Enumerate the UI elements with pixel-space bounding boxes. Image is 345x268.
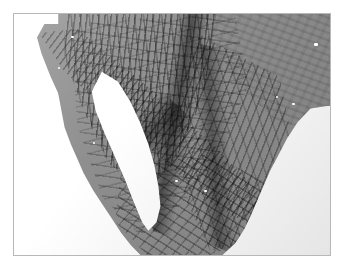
reservoir-6-icon	[71, 36, 74, 38]
reservoir-1-icon	[314, 43, 318, 46]
reservoir-8-icon	[49, 77, 51, 79]
shaded-relief-map[interactable]	[14, 14, 330, 255]
reservoir-5-icon	[204, 190, 207, 192]
reservoir-9-icon	[109, 132, 111, 134]
reservoir-10-icon	[93, 142, 95, 144]
figure-canvas	[0, 0, 345, 268]
map-frame	[13, 13, 331, 256]
